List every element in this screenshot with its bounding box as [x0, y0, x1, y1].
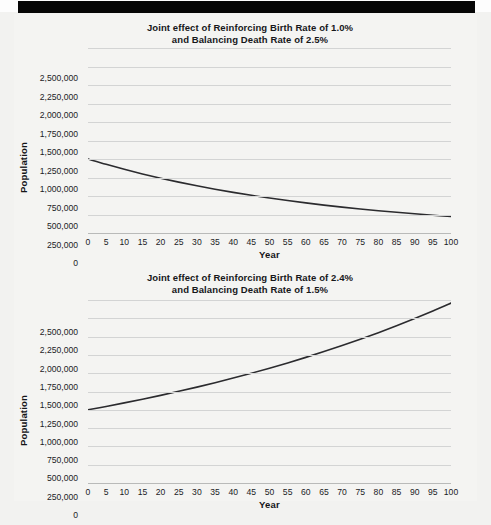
chart-2-gridline	[88, 373, 451, 374]
chart-2-x-tick-label: 50	[265, 487, 275, 497]
chart-1-title: Joint effect of Reinforcing Birth Rate o…	[60, 22, 440, 45]
scanned-page: Joint effect of Reinforcing Birth Rate o…	[0, 0, 491, 525]
chart-2-y-tick-label: 1,750,000	[40, 382, 78, 392]
chart-1-y-tick-label: 250,000	[47, 240, 78, 250]
chart-2-gridline	[88, 337, 451, 338]
chart-2-x-tick-label: 25	[174, 487, 184, 497]
chart-2-y-tick-label: 250,000	[47, 492, 78, 502]
chart-1-x-tick-label: 75	[355, 237, 365, 247]
chart-2-plot-area	[88, 300, 451, 483]
chart-2-gridline	[88, 465, 451, 466]
chart-1-x-tick-label: 55	[283, 237, 293, 247]
chart-1-x-tick-label: 10	[120, 237, 130, 247]
chart-2-x-tick-label: 0	[86, 487, 91, 497]
chart-2-x-tick-label: 70	[337, 487, 347, 497]
chart-2-y-tick-label: 2,500,000	[40, 327, 78, 337]
chart-1-x-tick-label: 60	[301, 237, 311, 247]
chart-1-x-tick-label: 70	[337, 237, 347, 247]
chart-1-x-tick-label: 25	[174, 237, 184, 247]
top-black-bar	[18, 1, 475, 13]
chart-1-population-curve	[88, 159, 451, 216]
chart-1-gridline	[88, 104, 451, 105]
chart-2-y-tick-label: 0	[73, 510, 78, 520]
chart-1-plot-area	[88, 48, 451, 233]
chart-1-y-tick-label: 2,000,000	[40, 110, 78, 120]
chart-1-x-tick-label: 45	[247, 237, 257, 247]
chart-2-gridline	[88, 392, 451, 393]
chart-1-x-tick-label: 100	[444, 237, 458, 247]
chart-1-gridline	[88, 67, 451, 68]
chart-2-x-tick-label: 80	[374, 487, 384, 497]
chart-2-x-tick-label: 45	[247, 487, 257, 497]
chart-2-gridline	[88, 355, 451, 356]
chart-1-gridline	[88, 178, 451, 179]
chart-2-x-tick-label: 35	[210, 487, 220, 497]
chart-1-x-tick-label: 65	[319, 237, 329, 247]
chart-2-y-tick-label: 1,500,000	[40, 400, 78, 410]
chart-1-x-tick-label: 95	[428, 237, 438, 247]
chart-1-x-tick-label: 5	[104, 237, 109, 247]
chart-2-gridline	[88, 446, 451, 447]
chart-1-x-tick-label: 90	[410, 237, 420, 247]
chart-1-title-line-2: and Balancing Death Rate of 2.5%	[60, 34, 440, 46]
chart-2-x-tick-label: 90	[410, 487, 420, 497]
chart-2-gridline	[88, 410, 451, 411]
chart-2-y-tick-label: 750,000	[47, 455, 78, 465]
chart-1-x-ticks: 0510152025303540455055606570758085909510…	[88, 234, 451, 248]
chart-2-x-tick-label: 85	[392, 487, 402, 497]
chart-1-gridline	[88, 141, 451, 142]
chart-1-title-line-1: Joint effect of Reinforcing Birth Rate o…	[60, 22, 440, 34]
chart-1-x-tick-label: 50	[265, 237, 275, 247]
chart-1-y-tick-label: 1,500,000	[40, 147, 78, 157]
chart-2-x-tick-label: 15	[138, 487, 148, 497]
chart-1-x-axis-label: Year	[88, 249, 451, 260]
chart-2-y-tick-label: 500,000	[47, 473, 78, 483]
chart-1-x-tick-label: 30	[192, 237, 202, 247]
chart-1-y-ticks: 0250,000500,000750,0001,000,0001,250,000…	[0, 48, 84, 233]
chart-1-gridline	[88, 215, 451, 216]
chart-2-x-tick-label: 100	[444, 487, 458, 497]
chart-2-x-tick-label: 5	[104, 487, 109, 497]
chart-2: Joint effect of Reinforcing Birth Rate o…	[0, 268, 491, 518]
chart-2-gridline	[88, 318, 451, 319]
chart-1-gridline	[88, 122, 451, 123]
chart-1-y-tick-label: 2,500,000	[40, 73, 78, 83]
chart-1-y-tick-label: 500,000	[47, 221, 78, 231]
chart-1-y-tick-label: 1,250,000	[40, 166, 78, 176]
chart-2-x-tick-label: 10	[120, 487, 130, 497]
chart-1-x-tick-label: 0	[86, 237, 91, 247]
chart-2-x-ticks: 0510152025303540455055606570758085909510…	[88, 484, 451, 498]
chart-1-x-tick-label: 85	[392, 237, 402, 247]
chart-1-x-tick-label: 40	[228, 237, 238, 247]
chart-1-y-tick-label: 750,000	[47, 203, 78, 213]
chart-1-y-tick-label: 0	[73, 258, 78, 268]
chart-2-y-tick-label: 2,250,000	[40, 345, 78, 355]
chart-2-gridline	[88, 428, 451, 429]
chart-2-y-ticks: 0250,000500,000750,0001,000,0001,250,000…	[0, 300, 84, 483]
chart-1-gridline	[88, 85, 451, 86]
chart-2-x-tick-label: 55	[283, 487, 293, 497]
chart-1-x-tick-label: 35	[210, 237, 220, 247]
chart-2-gridline	[88, 300, 451, 301]
chart-2-x-tick-label: 65	[319, 487, 329, 497]
chart-2-x-axis-label: Year	[88, 499, 451, 510]
chart-2-x-tick-label: 60	[301, 487, 311, 497]
chart-2-y-tick-label: 2,000,000	[40, 364, 78, 374]
chart-1-y-tick-label: 2,250,000	[40, 92, 78, 102]
chart-2-title: Joint effect of Reinforcing Birth Rate o…	[60, 272, 440, 295]
chart-2-x-tick-label: 95	[428, 487, 438, 497]
chart-1: Joint effect of Reinforcing Birth Rate o…	[0, 18, 491, 266]
chart-2-x-tick-label: 75	[355, 487, 365, 497]
chart-2-y-tick-label: 1,250,000	[40, 419, 78, 429]
chart-1-gridline	[88, 159, 451, 160]
chart-1-y-tick-label: 1,000,000	[40, 184, 78, 194]
chart-1-x-tick-label: 20	[156, 237, 166, 247]
chart-2-x-tick-label: 30	[192, 487, 202, 497]
chart-1-y-tick-label: 1,750,000	[40, 129, 78, 139]
chart-2-title-line-2: and Balancing Death Rate of 1.5%	[60, 284, 440, 296]
chart-1-gridline	[88, 48, 451, 49]
chart-2-x-tick-label: 40	[228, 487, 238, 497]
chart-2-y-tick-label: 1,000,000	[40, 437, 78, 447]
chart-1-x-tick-label: 15	[138, 237, 148, 247]
chart-2-title-line-1: Joint effect of Reinforcing Birth Rate o…	[60, 272, 440, 284]
